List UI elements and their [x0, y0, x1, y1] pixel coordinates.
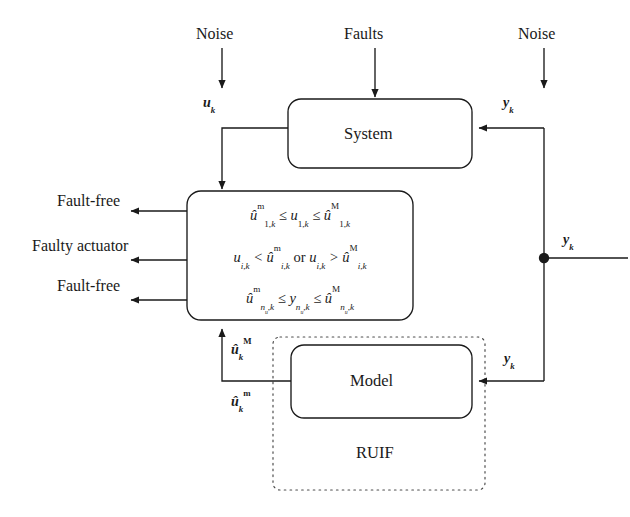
label-noise-left: Noise — [196, 26, 233, 42]
signal-label-uk: uk — [203, 96, 215, 110]
decision-label-2: Faulty actuator — [32, 238, 128, 254]
label-system-block: System — [344, 126, 393, 143]
signal-label-yk-bottom: yk — [504, 352, 515, 366]
label-ruif-block: RUIF — [356, 445, 394, 462]
decision-label-1: Fault-free — [57, 193, 120, 209]
signal-label-uhat-min: ûkm — [231, 395, 251, 409]
label-noise-right: Noise — [518, 26, 555, 42]
signal-path-uk — [222, 128, 288, 189]
ruif-dashed-block — [273, 337, 485, 490]
signal-label-yk-top: yk — [503, 96, 514, 110]
condition-inequality-3: ûmnu,k ≤ ynu,k ≤ ûMnu,k — [187, 291, 413, 308]
signal-label-yk-branch: yk — [563, 233, 574, 247]
condition-inequality-1: ûm1,k ≤ u1,k ≤ ûM1,k — [187, 208, 413, 223]
signal-junction-dot — [539, 253, 549, 263]
label-faults: Faults — [344, 26, 383, 42]
signal-label-uhat-max: ûkM — [231, 343, 252, 357]
condition-inequality-2: ui,k < ûmi,k or ui,k > ûMi,k — [187, 250, 413, 265]
label-model-block: Model — [350, 373, 393, 390]
decision-label-3: Fault-free — [57, 278, 120, 294]
